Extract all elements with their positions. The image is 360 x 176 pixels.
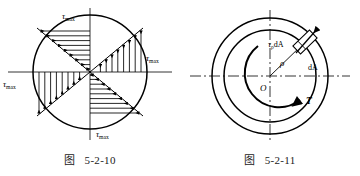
tau-max-top-label: τmax [62,11,75,22]
shear-force-label: τρdA [268,39,284,50]
caption-number-right: 5-2-11 [265,154,296,166]
tau-max-left-label: τmax [3,79,16,90]
center-label-O: O [260,83,267,93]
tau-max-right-label: τmax [146,53,159,64]
figure-5-2-11-panel: τρdA ρ dA O T 图5-2-11 [180,0,360,176]
caption-number-left: 5-2-10 [85,154,116,166]
radius-label-rho: ρ [279,58,285,68]
tau-max-bottom-label: τmax [96,129,109,140]
figure-sheet: τmax τmax τmax τmax 图5-2-10 [0,0,360,176]
stress-arrows-right [100,30,141,72]
figure-5-2-10-drawing: τmax τmax τmax τmax [0,0,180,150]
caption-label-right: 图 [244,154,255,166]
caption-label-left: 图 [64,154,75,166]
figure-5-2-10-panel: τmax τmax τmax τmax 图5-2-10 [0,0,180,176]
figure-5-2-10-caption: 图5-2-10 [0,150,180,170]
element-area-label: dA [308,63,318,72]
torque-label-T: T [306,96,313,106]
stress-arrows-left [39,72,80,114]
figure-5-2-11-caption: 图5-2-11 [180,150,360,170]
figure-5-2-11-drawing: τρdA ρ dA O T [180,0,360,150]
